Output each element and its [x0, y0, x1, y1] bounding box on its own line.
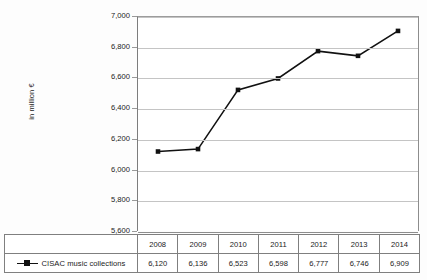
- data-point-marker: [236, 88, 241, 93]
- data-point-marker: [156, 149, 161, 154]
- data-table: 2008200920102011201220132014 CISAC music…: [4, 234, 420, 273]
- table-value-cell: 6,909: [379, 254, 419, 273]
- series-polyline: [158, 31, 398, 152]
- gridline: [138, 48, 418, 49]
- gridline: [138, 109, 418, 110]
- y-axis-tick-label: 6,600: [96, 73, 130, 81]
- y-axis-tick-label: 6,800: [96, 43, 130, 51]
- y-axis-tick-mark: [132, 77, 137, 78]
- table-value-cell: 6,598: [258, 254, 298, 273]
- data-point-marker: [196, 147, 201, 152]
- table-header-cell: 2011: [258, 235, 298, 254]
- y-axis-title: in million €: [27, 47, 36, 157]
- plot-area: [137, 16, 419, 231]
- gridline: [138, 17, 418, 18]
- y-axis-tick-mark: [132, 47, 137, 48]
- gridline: [138, 171, 418, 172]
- table-header-row: 2008200920102011201220132014: [5, 235, 420, 254]
- y-axis-tick-mark: [132, 139, 137, 140]
- table-header-cell: 2012: [299, 235, 339, 254]
- data-point-marker: [316, 49, 321, 54]
- table-value-cell: 6,523: [218, 254, 258, 273]
- table-header-cell: 2008: [138, 235, 178, 254]
- y-axis-tick-labels: 7,0006,8006,6006,4006,2006,0005,8005,600: [96, 0, 130, 236]
- series-line-cisac-music-collections: [138, 17, 418, 231]
- y-axis-tick-label: 5,800: [96, 196, 130, 204]
- table-value-cell: 6,777: [299, 254, 339, 273]
- data-point-marker: [356, 54, 361, 59]
- legend-label: CISAC music collections: [42, 259, 126, 268]
- y-axis-tick-label: 6,400: [96, 104, 130, 112]
- y-axis-tick-mark: [132, 231, 137, 232]
- gridline: [138, 140, 418, 141]
- data-table-region: 2008200920102011201220132014 CISAC music…: [4, 234, 419, 272]
- table-value-cell: 6,746: [339, 254, 379, 273]
- gridline: [138, 201, 418, 202]
- table-value-cell: 6,136: [178, 254, 218, 273]
- table-header-cell: 2009: [178, 235, 218, 254]
- y-axis-tick-label: 6,200: [96, 135, 130, 143]
- table-header-cell: 2010: [218, 235, 258, 254]
- line-chart-figure: in million € 7,0006,8006,6006,4006,2006,…: [0, 0, 427, 280]
- y-axis-tick-label: 7,000: [96, 12, 130, 20]
- y-axis-tick-mark: [132, 200, 137, 201]
- table-header-cell: 2014: [379, 235, 419, 254]
- gridline: [138, 232, 418, 233]
- y-axis-tick-mark: [132, 108, 137, 109]
- data-point-marker: [396, 29, 401, 34]
- y-axis-tick-mark: [132, 170, 137, 171]
- table-row: CISAC music collections 6,1206,1366,5236…: [5, 254, 420, 273]
- legend-line-marker-icon: [17, 259, 38, 267]
- gridline: [138, 78, 418, 79]
- y-axis-tick-mark: [132, 16, 137, 17]
- table-header-cell: 2013: [339, 235, 379, 254]
- legend-entry: CISAC music collections: [5, 254, 138, 273]
- table-value-cell: 6,120: [138, 254, 178, 273]
- y-axis-tick-label: 6,000: [96, 166, 130, 174]
- table-corner-cell: [5, 235, 138, 254]
- plot-region: in million € 7,0006,8006,6006,4006,2006,…: [0, 0, 427, 236]
